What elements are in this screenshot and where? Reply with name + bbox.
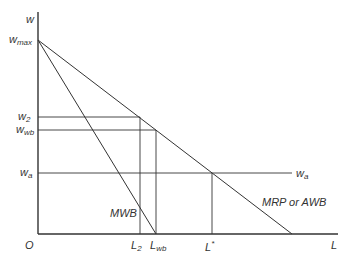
mrp-awb-curve-label: MRP or AWB <box>262 197 326 208</box>
l2-label: L2 <box>131 240 142 253</box>
lstar-label: L* <box>205 240 214 253</box>
mwb-line <box>38 40 156 234</box>
y-axis-label: w <box>26 14 34 25</box>
wa-line-label: wa <box>296 168 308 181</box>
lwb-label: Lwb <box>150 240 166 253</box>
x-axis-label: L <box>331 240 337 251</box>
wwb-label: wwb <box>16 124 34 137</box>
diagram-canvas <box>0 0 346 261</box>
mrp-awb-line <box>38 40 292 234</box>
origin-label: O <box>25 240 34 251</box>
mwb-curve-label: MWB <box>110 208 137 219</box>
wa-label: wa <box>20 167 32 180</box>
wmax-label: wmax <box>9 34 32 47</box>
